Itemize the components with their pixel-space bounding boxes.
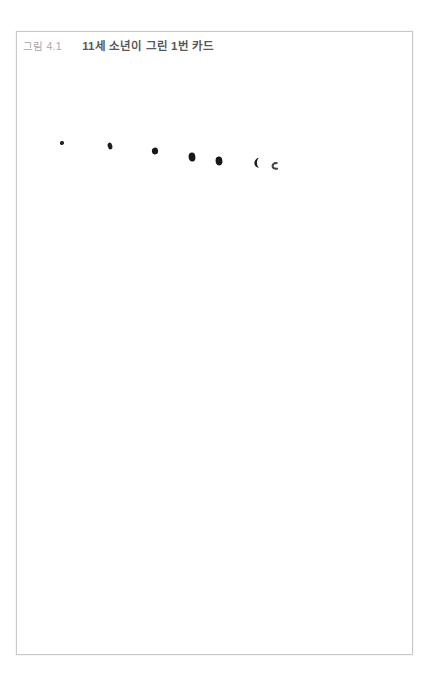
ink-mark-group [59, 140, 277, 169]
ink-crescent-6 [253, 157, 260, 168]
page-running-head: ― ― ― [369, 0, 411, 3]
ink-dot-4 [188, 152, 196, 162]
hand-drawn-ink-marks [17, 32, 414, 656]
ink-dot-5 [215, 156, 223, 165]
figure-card: 그림 4.1 11세 소년이 그린 1번 카드 [16, 31, 413, 655]
ink-dot-2 [107, 142, 113, 150]
drawing-canvas [17, 32, 412, 654]
ink-dot-1 [59, 140, 64, 145]
ink-dot-3 [151, 147, 158, 155]
ink-curve-7 [272, 163, 277, 169]
